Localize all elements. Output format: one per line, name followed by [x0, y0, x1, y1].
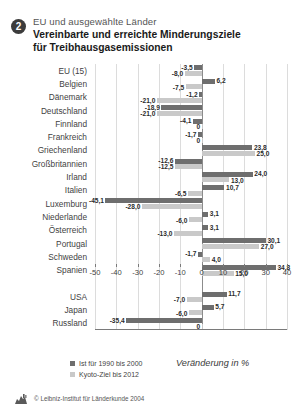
figure-footer: © Leibniz-Institut für Länderkunde 2004: [14, 392, 144, 405]
bar-ist: [202, 185, 225, 190]
bar-value-ziel: 0: [197, 124, 201, 130]
figure-header: 2 EU und ausgewählte Länder Vereinbarte …: [0, 16, 305, 55]
bar-value-ziel: 0: [197, 324, 201, 330]
bar-value-ist: -4,1: [180, 118, 191, 124]
bar-value-ziel: 0: [197, 138, 201, 144]
category-label: Portugal: [56, 239, 87, 249]
category-label: Großbritannien: [32, 159, 87, 169]
bar-ziel: [202, 177, 230, 182]
x-axis-ticks: -50-40-30-20-10010203040: [95, 268, 287, 282]
bar-ist: [202, 292, 227, 297]
legend-item-ist: Ist für 1990 bis 2000: [70, 358, 142, 369]
bar-ist: [105, 198, 201, 203]
gridline: [138, 64, 139, 330]
bar-ziel: [187, 297, 202, 302]
bar-ist: [202, 238, 266, 243]
bar-ziel: [189, 310, 202, 315]
x-tick-label: -40: [111, 268, 122, 277]
bar-ziel: [202, 324, 203, 329]
legend-swatch-ziel-icon: [70, 372, 75, 377]
x-tick-mark: [287, 264, 288, 267]
x-tick-mark: [266, 264, 267, 267]
gridline: [244, 64, 245, 330]
copyright-credit: © Leibniz-Institut für Länderkunde 2004: [34, 395, 144, 402]
category-label: USA: [70, 292, 87, 302]
bar-value-ziel: -8,0: [172, 71, 183, 77]
bar-ist: [202, 145, 253, 150]
category-label: Finnland: [55, 119, 87, 129]
bar-ziel: [175, 164, 202, 169]
category-label: Frankreich: [48, 132, 87, 142]
bar-ist: [202, 172, 253, 177]
title-block: EU und ausgewählte Länder Vereinbarte un…: [33, 16, 305, 55]
bar-value-ist: 3,1: [210, 211, 219, 217]
bar-value-ist: 5,7: [215, 304, 224, 310]
category-label: Russland: [52, 318, 87, 328]
zero-axis-line: [202, 64, 203, 330]
chart-area: EU (15)BelgienDänemarkDeutschlandFinnlan…: [0, 64, 305, 354]
bar-value-ziel: 27,0: [261, 244, 274, 250]
category-label: Schweden: [48, 252, 87, 262]
category-label: Deutschland: [41, 106, 87, 116]
bar-value-ziel: -6,0: [176, 311, 187, 317]
legend-item-ziel: Kyoto-Ziel bis 2012: [70, 369, 142, 380]
bar-value-ist: -1,7: [185, 251, 196, 257]
figure-number-badge: 2: [11, 19, 26, 34]
bar-ist: [126, 318, 202, 323]
x-tick-mark: [180, 264, 181, 267]
figure-title-line1: Vereinbarte und erreichte Minderungsziel…: [33, 29, 299, 41]
x-tick-mark: [223, 264, 224, 267]
figure-root: 2 EU und ausgewählte Länder Vereinbarte …: [0, 0, 305, 419]
bar-value-ist: 11,7: [228, 291, 240, 297]
bar-ziel: [174, 231, 202, 236]
category-label: Luxemburg: [45, 199, 87, 209]
bar-value-ziel: -28,0: [125, 204, 140, 210]
bar-ziel: [186, 84, 202, 89]
bar-value-ist: 10,7: [226, 185, 239, 191]
bar-ziel: [202, 138, 203, 143]
bar-ist: [202, 305, 214, 310]
bar-ist: [202, 212, 209, 217]
x-tick-label: 20: [240, 268, 248, 277]
x-axis-caption: Veränderung in %: [176, 358, 249, 368]
bar-ist: [161, 105, 201, 110]
x-tick-mark: [202, 264, 203, 267]
gridline: [266, 64, 267, 330]
bar-value-ist: 3,1: [210, 225, 219, 231]
x-tick-label: -30: [132, 268, 143, 277]
category-label: Österreich: [49, 225, 87, 235]
figure-title-line2: für Treibhausgasemissionen: [33, 42, 299, 54]
bar-ziel: [202, 124, 203, 129]
figure-subtitle: EU und ausgewählte Länder: [33, 16, 299, 28]
x-axis-line: [95, 329, 287, 330]
category-label: Belgien: [59, 79, 87, 89]
bar-value-ist: 6,2: [216, 78, 225, 84]
x-tick-mark: [138, 264, 139, 267]
x-tick-label: -10: [175, 268, 186, 277]
x-tick-mark: [95, 264, 96, 267]
x-tick-mark: [116, 264, 117, 267]
gridline: [287, 64, 288, 330]
bar-ziel: [157, 98, 202, 103]
x-tick-label: -50: [90, 268, 101, 277]
bar-value-ziel: -7,5: [173, 85, 184, 91]
gridline: [180, 64, 181, 330]
category-labels: EU (15)BelgienDänemarkDeutschlandFinnlan…: [0, 64, 91, 330]
bar-ziel: [188, 191, 202, 196]
bar-value-ziel: -6,0: [176, 218, 187, 224]
legend-swatch-ist-icon: [70, 361, 75, 366]
category-label: Dänemark: [49, 92, 87, 102]
bar-value-ziel: -12,5: [158, 164, 173, 170]
bar-ziel: [202, 151, 255, 156]
bar-value-ist: -35,4: [110, 318, 125, 324]
gridline: [223, 64, 224, 330]
bar-value-ziel: -21,0: [140, 111, 155, 117]
category-label: Italien: [65, 185, 87, 195]
bar-value-ziel: -6,5: [175, 191, 186, 197]
bar-ziel: [202, 244, 260, 249]
bar-ziel: [157, 111, 202, 116]
x-tick-mark: [244, 264, 245, 267]
bar-value-ziel: -13,0: [157, 231, 172, 237]
bar-ziel: [142, 204, 202, 209]
chart-legend: Ist für 1990 bis 2000 Kyoto-Ziel bis 201…: [70, 358, 142, 380]
